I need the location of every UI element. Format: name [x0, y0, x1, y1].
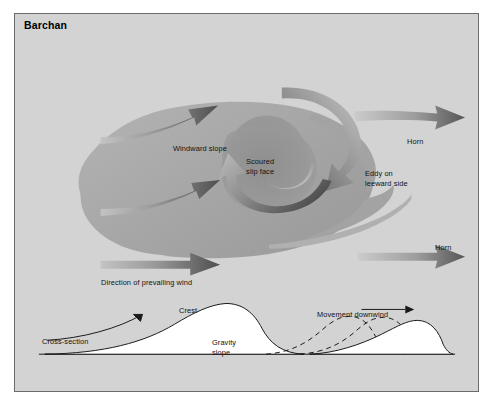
figure-title: Barchan [24, 19, 67, 31]
cross-section-pointer-arrowhead [133, 314, 142, 321]
lower-horn-outflow-arrow [358, 245, 466, 269]
upper-horn-outflow-arrow [354, 106, 466, 130]
cross-section-pointer-line [47, 314, 143, 340]
figure-panel: Windward slope Scoured slip face Eddy on… [14, 13, 479, 392]
diagram-canvas [15, 14, 478, 391]
later-profile [310, 320, 453, 354]
current-profile [45, 303, 304, 354]
cross-section-group [39, 303, 455, 354]
movement-downwind-arrowhead [405, 305, 414, 313]
barchan-dune-figure: Windward slope Scoured slip face Eddy on… [0, 0, 493, 406]
